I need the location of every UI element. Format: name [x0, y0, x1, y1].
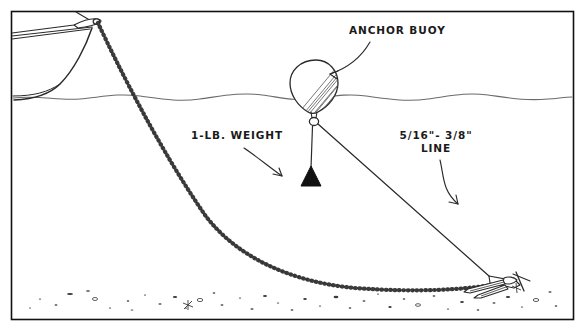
anchor-buoy-label: ANCHOR BUOY [349, 24, 446, 36]
line-spec-label-line2: LINE [421, 142, 451, 154]
line-spec-label-line1: 5/16"- 3/8" [399, 129, 472, 141]
weight-label: 1-LB. WEIGHT [191, 129, 283, 141]
anchoring-diagram: ANCHOR BUOY 1-LB. WEIGHT 5/16"- 3/8" LIN… [0, 0, 585, 334]
diagram-canvas: ANCHOR BUOY 1-LB. WEIGHT 5/16"- 3/8" LIN… [0, 0, 585, 334]
buoy-ring [309, 118, 318, 126]
